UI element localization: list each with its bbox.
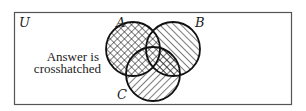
annotation-line-2: crosshatched bbox=[34, 61, 102, 76]
set-a-label: A bbox=[115, 15, 125, 30]
set-c-label: C bbox=[117, 87, 127, 102]
venn-diagram: U A B C Answer is crosshatched bbox=[0, 0, 306, 111]
universe-label: U bbox=[19, 15, 31, 30]
set-b-label: B bbox=[194, 15, 205, 30]
